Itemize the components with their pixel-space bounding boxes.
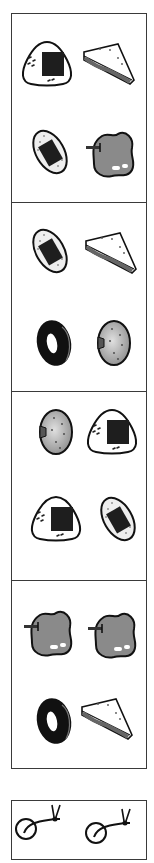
bun-icon[interactable] [24, 402, 84, 462]
puzzle-panel-4 [11, 580, 147, 769]
puzzle-panel-2 [11, 202, 147, 392]
onigiri-oval-icon[interactable] [20, 221, 80, 281]
onigiri-triangle-icon[interactable] [26, 489, 86, 549]
onigiri-triangle-icon[interactable] [17, 34, 77, 94]
onigiri-triangle-icon[interactable] [82, 402, 142, 462]
mouse-icon[interactable] [84, 803, 144, 863]
bun-icon[interactable] [82, 313, 142, 373]
sandwich-icon[interactable] [80, 223, 140, 283]
puzzle-panel-5 [11, 800, 147, 860]
onigiri-oval-icon[interactable] [88, 489, 148, 549]
mouse-icon[interactable] [14, 799, 74, 859]
apple-icon[interactable] [82, 124, 142, 184]
apple-icon[interactable] [84, 605, 144, 665]
donut-icon[interactable] [24, 691, 84, 751]
donut-icon[interactable] [24, 313, 84, 373]
puzzle-panel-1 [11, 13, 147, 203]
puzzle-panel-3 [11, 391, 147, 581]
onigiri-oval-icon[interactable] [20, 122, 80, 182]
apple-icon[interactable] [20, 603, 80, 663]
sandwich-icon[interactable] [76, 689, 136, 749]
sandwich-icon[interactable] [78, 34, 138, 94]
